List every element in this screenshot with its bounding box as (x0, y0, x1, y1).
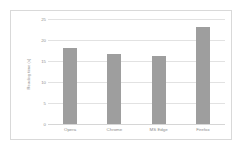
bar (152, 56, 166, 124)
gridline (48, 124, 225, 125)
y-axis-tick-label-group: 0510152025 (29, 19, 46, 124)
bar (196, 27, 210, 124)
x-axis-tick-slot: Opera (48, 127, 92, 137)
bar (107, 54, 121, 124)
x-axis-tick-label-group: OperaChromeMS EdgeFirefox (48, 127, 225, 137)
bar-slot (181, 19, 225, 124)
bar (63, 48, 77, 124)
y-axis-tick-label: 15 (29, 59, 46, 64)
x-axis-tick-label: Firefox (181, 127, 225, 133)
x-axis-tick-label: Chrome (92, 127, 136, 133)
x-axis-tick-slot: Chrome (92, 127, 136, 137)
bar-slot (92, 19, 136, 124)
bar-series-group (48, 19, 225, 124)
x-axis-tick-label: Opera (48, 127, 92, 133)
plot-area (48, 19, 225, 124)
y-axis-tick-label: 20 (29, 38, 46, 43)
bar-chart-figure: Reading time (s) 0510152025 OperaChromeM… (10, 10, 232, 140)
bar-slot (137, 19, 181, 124)
x-axis-tick-slot: MS Edge (137, 127, 181, 137)
x-axis-tick-label: MS Edge (137, 127, 181, 133)
y-axis-tick-label: 25 (29, 17, 46, 22)
y-axis-tick-label: 5 (29, 101, 46, 106)
x-axis-tick-slot: Firefox (181, 127, 225, 137)
bar-slot (48, 19, 92, 124)
y-axis-tick-label: 0 (29, 122, 46, 127)
y-axis-tick-label: 10 (29, 80, 46, 85)
